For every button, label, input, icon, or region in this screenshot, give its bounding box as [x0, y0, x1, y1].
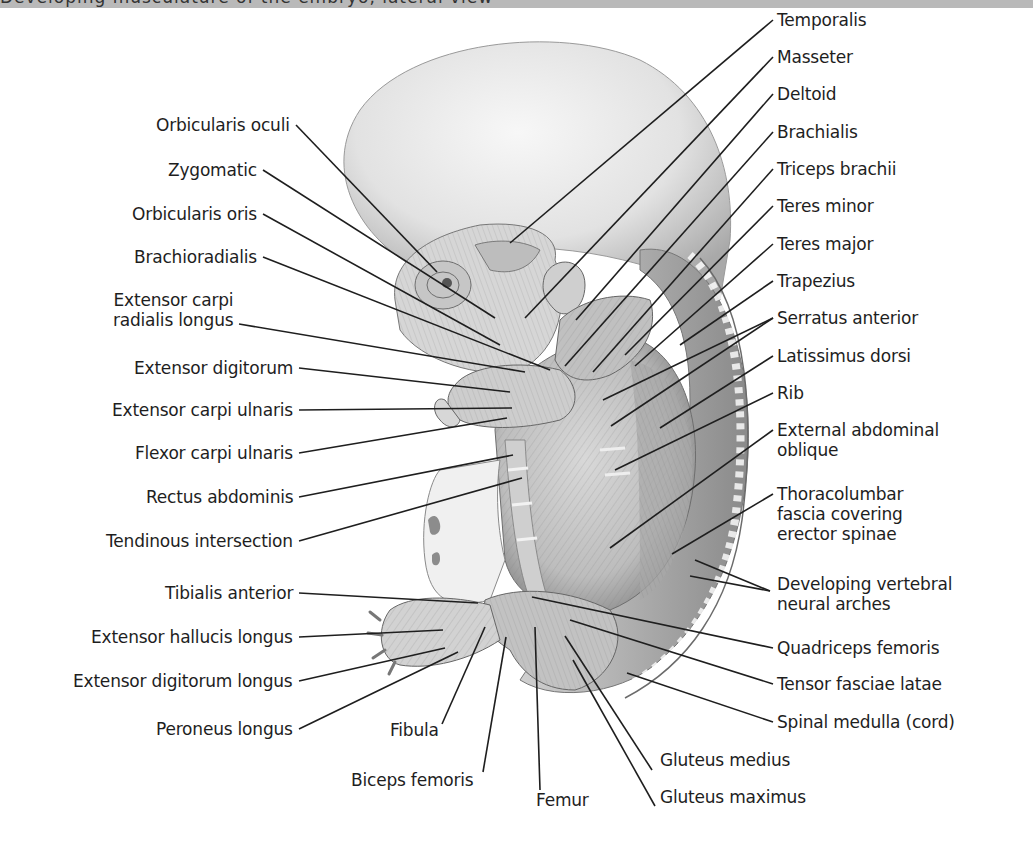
label-teres-major: Teres major	[777, 234, 873, 254]
label-external-abdominal-oblique: External abdominal oblique	[777, 420, 939, 460]
label-deltoid: Deltoid	[777, 84, 836, 104]
leader-line-spinal-medulla-cord	[627, 673, 773, 722]
label-tibialis-anterior: Tibialis anterior	[165, 583, 293, 603]
label-triceps-brachii: Triceps brachii	[777, 159, 896, 179]
label-peroneus-longus: Peroneus longus	[156, 719, 293, 739]
label-temporalis: Temporalis	[777, 10, 866, 30]
label-rectus-abdominis: Rectus abdominis	[146, 487, 293, 507]
label-zygomatic: Zygomatic	[168, 160, 257, 180]
label-extensor-digitorum: Extensor digitorum	[134, 358, 293, 378]
label-extensor-digitorum-longus: Extensor digitorum longus	[73, 671, 293, 691]
leader-line-flexor-carpi-ulnaris	[299, 418, 507, 453]
label-thoracolumbar-fascia-covering-erector-spinae: Thoracolumbar fascia covering erector sp…	[777, 484, 903, 544]
label-biceps-femoris: Biceps femoris	[351, 770, 473, 790]
label-developing-vertebral-neural-arches: Developing vertebral neural arches	[777, 574, 952, 614]
label-extensor-hallucis-longus: Extensor hallucis longus	[91, 627, 293, 647]
label-brachioradialis: Brachioradialis	[134, 247, 257, 267]
label-extensor-carpi-ulnaris: Extensor carpi ulnaris	[112, 400, 293, 420]
label-latissimus-dorsi: Latissimus dorsi	[777, 346, 911, 366]
label-tensor-fasciae-latae: Tensor fasciae latae	[777, 674, 942, 694]
label-tendinous-intersection: Tendinous intersection	[106, 531, 293, 551]
label-teres-minor: Teres minor	[777, 196, 874, 216]
label-fibula: Fibula	[390, 720, 439, 740]
abdomen-wall-shape	[424, 460, 505, 604]
label-gluteus-medius: Gluteus medius	[660, 750, 790, 770]
label-brachialis: Brachialis	[777, 122, 858, 142]
label-orbicularis-oris: Orbicularis oris	[132, 204, 257, 224]
label-quadriceps-femoris: Quadriceps femoris	[777, 638, 939, 658]
label-orbicularis-oculi: Orbicularis oculi	[156, 115, 290, 135]
label-femur: Femur	[536, 790, 589, 810]
label-spinal-medulla-cord: Spinal medulla (cord)	[777, 712, 955, 732]
label-masseter: Masseter	[777, 47, 853, 67]
label-rib: Rib	[777, 383, 804, 403]
leader-line-biceps-femoris	[483, 637, 506, 772]
label-extensor-carpi-radialis-longus: Extensor carpi radialis longus	[113, 290, 233, 330]
label-trapezius: Trapezius	[777, 271, 855, 291]
leg-shape	[368, 591, 618, 690]
label-serratus-anterior: Serratus anterior	[777, 308, 918, 328]
label-flexor-carpi-ulnaris: Flexor carpi ulnaris	[135, 443, 293, 463]
label-gluteus-maximus: Gluteus maximus	[660, 787, 806, 807]
